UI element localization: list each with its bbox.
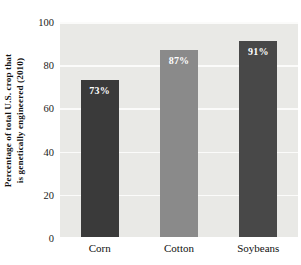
bar-cotton: 87%	[160, 50, 198, 238]
y-tick-label: 100	[38, 17, 54, 28]
x-axis-baseline	[60, 237, 298, 239]
y-axis-title: Percentage of total U.S. crop that is ge…	[0, 0, 30, 240]
bar-chart-figure: Percentage of total U.S. crop that is ge…	[0, 0, 301, 265]
bar-value-label: 73%	[81, 85, 119, 96]
y-axis-title-text: Percentage of total U.S. crop that is ge…	[4, 53, 27, 186]
x-category-label: Cotton	[164, 242, 194, 254]
x-category-label: Soybeans	[237, 242, 279, 254]
y-tick-label: 40	[44, 146, 55, 157]
bar-value-label: 91%	[239, 46, 277, 57]
x-axis-category-labels: CornCottonSoybeans	[60, 242, 298, 262]
bar-corn: 73%	[81, 80, 119, 238]
bar-soybeans: 91%	[239, 41, 277, 238]
y-axis-tick-labels: 020406080100	[28, 22, 58, 238]
y-axis-title-line-1: Percentage of total U.S. crop that	[4, 53, 16, 186]
y-tick-label: 80	[44, 60, 55, 71]
x-category-label: Corn	[89, 242, 111, 254]
bar-value-label: 87%	[160, 55, 198, 66]
gridline	[60, 22, 298, 24]
y-axis-title-line-2: is genetically engineered (2010)	[15, 53, 27, 186]
plot-area: 73%87%91%	[60, 22, 298, 238]
y-tick-label: 0	[49, 233, 54, 244]
y-tick-label: 60	[44, 103, 55, 114]
y-tick-label: 20	[44, 189, 55, 200]
